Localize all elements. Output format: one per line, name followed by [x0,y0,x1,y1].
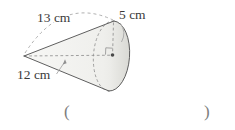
worksheet-figure: 13 cm 5 cm 12 cm ( ) [0,0,235,130]
slant-label: 13 cm [37,10,71,25]
radius-label: 5 cm [119,7,146,22]
answer-blank: ( ) [64,102,210,121]
height-label: 12 cm [17,67,51,82]
base-center-dot [111,53,115,57]
answer-paren-close: ) [204,102,210,121]
cone-diagram: 13 cm 5 cm 12 cm ( ) [0,0,235,130]
answer-paren-open: ( [64,102,70,121]
